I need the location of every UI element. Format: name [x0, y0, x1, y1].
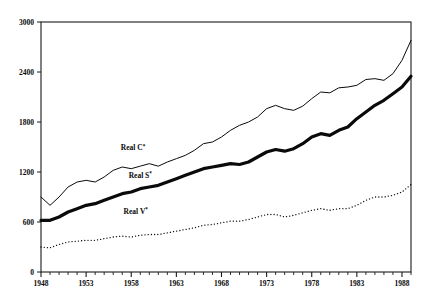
y-tick-label: 1800	[19, 118, 34, 127]
y-tick-label: 0	[30, 268, 34, 277]
x-tick-label: 1958	[124, 279, 139, 288]
series-label-superscript: *	[145, 206, 148, 212]
x-axis-tick-labels: 194819531958196319681973197819831988	[34, 279, 410, 288]
x-tick-label: 1948	[34, 279, 49, 288]
y-axis-tick-labels: 06001200180024003000	[19, 18, 34, 277]
chart-container: 06001200180024003000 1948195319581963196…	[0, 0, 434, 304]
x-tick-label: 1978	[304, 279, 319, 288]
series-label-text: Real S*	[129, 170, 153, 180]
x-tick-label: 1963	[169, 279, 184, 288]
y-tick-label: 3000	[19, 18, 34, 27]
x-tick-label: 1953	[79, 279, 94, 288]
series-label-text: Real C*	[121, 143, 146, 153]
series-label: Real C*	[121, 143, 146, 153]
y-tick-label: 2400	[19, 68, 34, 77]
x-tick-label: 1983	[349, 279, 364, 288]
series-label: Real S*	[129, 170, 153, 180]
x-tick-label: 1973	[259, 279, 274, 288]
series-label-text: Real V*	[124, 206, 149, 216]
series-label-superscript: *	[143, 143, 146, 149]
y-tick-label: 1200	[19, 168, 34, 177]
series-label-superscript: *	[149, 170, 152, 176]
series-label: Real V*	[124, 206, 149, 216]
plot-frame	[41, 22, 411, 272]
y-axis-ticks	[37, 22, 41, 272]
plot-border	[41, 22, 411, 272]
x-tick-label: 1988	[394, 279, 409, 288]
y-tick-label: 600	[23, 218, 35, 227]
x-tick-label: 1968	[214, 279, 229, 288]
line-chart: 06001200180024003000 1948195319581963196…	[0, 0, 434, 304]
